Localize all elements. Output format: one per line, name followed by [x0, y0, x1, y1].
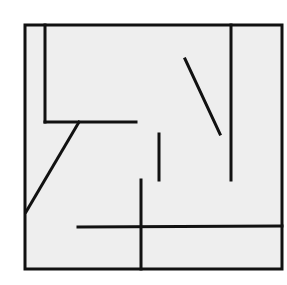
maze-diagram: [0, 0, 287, 285]
lower-horizontal-wall: [78, 226, 282, 227]
